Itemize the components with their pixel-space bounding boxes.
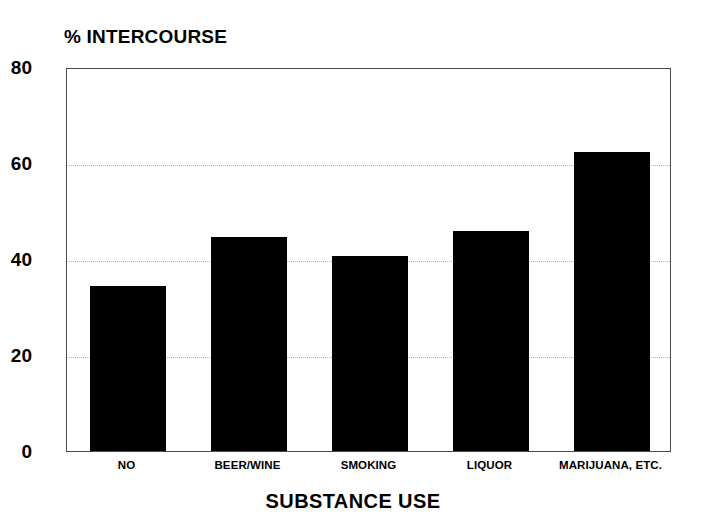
- y-tick-label: 60: [0, 154, 32, 173]
- y-axis-title: % INTERCOURSE: [64, 26, 227, 48]
- y-tick-label: 20: [0, 346, 32, 365]
- bar-series: [67, 69, 670, 451]
- x-tick-label: NO: [66, 458, 187, 472]
- x-axis-title: SUBSTANCE USE: [0, 489, 706, 513]
- plot-area: [66, 68, 671, 452]
- x-tick-label: MARIJUANA, ETC.: [550, 458, 671, 472]
- x-tick-label: BEER/WINE: [187, 458, 308, 472]
- y-tick-label: 0: [0, 442, 32, 461]
- x-tick-label: SMOKING: [308, 458, 429, 472]
- bar: [211, 237, 287, 451]
- bar: [332, 256, 408, 451]
- bar: [453, 231, 529, 451]
- bar: [90, 286, 166, 451]
- x-tick-label: LIQUOR: [429, 458, 550, 472]
- bar-chart-figure: % INTERCOURSE 020406080 NOBEER/WINESMOKI…: [0, 0, 706, 532]
- y-tick-label: 40: [0, 250, 32, 269]
- y-tick-label: 80: [0, 58, 32, 77]
- bar: [574, 152, 650, 451]
